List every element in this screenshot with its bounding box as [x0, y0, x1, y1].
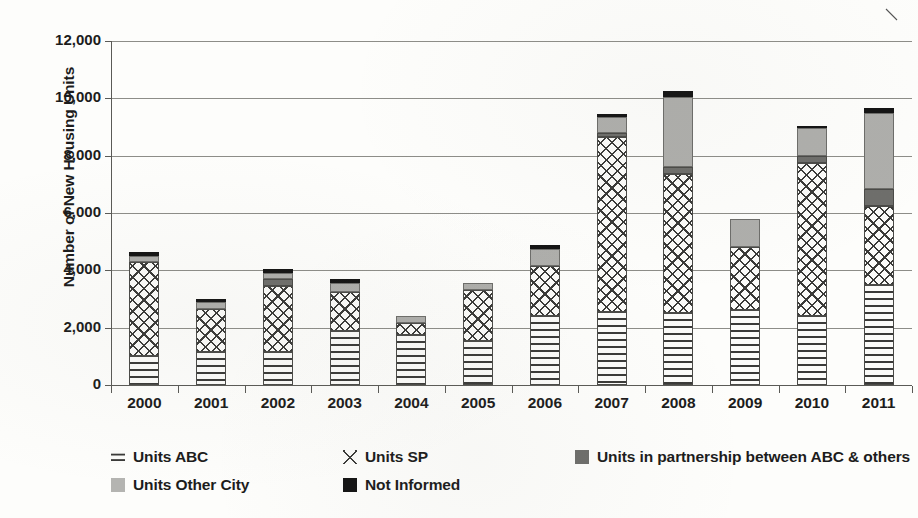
- legend-item[interactable]: Not Informed: [343, 471, 460, 499]
- bar-segment[interactable]: [797, 316, 827, 385]
- x-tick-mark: [512, 386, 513, 393]
- legend-label: Units Other City: [133, 476, 249, 494]
- y-axis-title: Number of New Housing Units: [60, 12, 78, 342]
- bar-segment[interactable]: [663, 167, 693, 174]
- bar-stack[interactable]: [129, 41, 159, 385]
- bar-segment[interactable]: [263, 273, 293, 279]
- x-tick-label: 2006: [513, 394, 577, 412]
- legend-item[interactable]: Units Other City: [111, 471, 249, 499]
- bar-segment[interactable]: [196, 302, 226, 309]
- bar-segment[interactable]: [597, 133, 627, 137]
- x-tick-mark: [445, 386, 446, 393]
- bar-segment[interactable]: [864, 189, 894, 206]
- bar-segment[interactable]: [797, 126, 827, 129]
- x-tick-label: 2010: [780, 394, 844, 412]
- bar-segment[interactable]: [730, 219, 760, 248]
- legend-row: Units Other CityNot Informed: [111, 471, 911, 499]
- bar-segment[interactable]: [330, 279, 360, 283]
- bar-segment[interactable]: [864, 108, 894, 112]
- bar-stack[interactable]: [864, 41, 894, 385]
- bar-segment[interactable]: [196, 309, 226, 352]
- x-tick-mark: [111, 386, 112, 393]
- x-tick-mark: [311, 386, 312, 393]
- bar-segment[interactable]: [864, 206, 894, 285]
- bar-stack[interactable]: [530, 41, 560, 385]
- bar-segment[interactable]: [463, 341, 493, 385]
- bar-stack[interactable]: [730, 41, 760, 385]
- bar-segment[interactable]: [530, 316, 560, 385]
- bar-segment[interactable]: [597, 312, 627, 385]
- bar-stack[interactable]: [663, 41, 693, 385]
- bar-segment[interactable]: [730, 310, 760, 385]
- y-tick-mark: [105, 213, 112, 214]
- y-tick-label: 8,000: [21, 146, 101, 163]
- bar-segment[interactable]: [330, 283, 360, 292]
- x-tick-label: 2009: [713, 394, 777, 412]
- bar-segment[interactable]: [730, 247, 760, 310]
- bar-stack[interactable]: [597, 41, 627, 385]
- legend-label: Not Informed: [365, 476, 460, 494]
- legend-item[interactable]: Units ABC: [111, 443, 208, 471]
- x-tick-mark: [578, 386, 579, 393]
- y-tick-mark: [105, 270, 112, 271]
- bar-segment[interactable]: [396, 323, 426, 334]
- bar-segment[interactable]: [263, 352, 293, 385]
- bar-segment[interactable]: [797, 163, 827, 316]
- bar-stack[interactable]: [396, 41, 426, 385]
- bar-segment[interactable]: [663, 91, 693, 97]
- bar-segment[interactable]: [663, 97, 693, 167]
- y-tick-label: 2,000: [21, 318, 101, 335]
- bar-segment[interactable]: [864, 113, 894, 189]
- bar-segment[interactable]: [196, 352, 226, 385]
- bar-segment[interactable]: [463, 290, 493, 340]
- y-tick-label: 12,000: [21, 31, 101, 48]
- bar-segment[interactable]: [864, 285, 894, 385]
- bar-segment[interactable]: [129, 356, 159, 385]
- bar-stack[interactable]: [330, 41, 360, 385]
- y-tick-label: 0: [21, 375, 101, 392]
- x-tick-mark: [378, 386, 379, 393]
- bar-segment[interactable]: [530, 245, 560, 249]
- legend-item[interactable]: Units in partnership between ABC & other…: [575, 443, 910, 471]
- bar-segment[interactable]: [196, 299, 226, 302]
- y-tick-label: 10,000: [21, 88, 101, 105]
- chart-legend: Units ABCUnits SPUnits in partnership be…: [111, 443, 911, 499]
- x-tick-label: 2002: [246, 394, 310, 412]
- bar-segment[interactable]: [463, 283, 493, 290]
- bar-stack[interactable]: [263, 41, 293, 385]
- bar-segment[interactable]: [597, 114, 627, 117]
- plot-area: [111, 41, 912, 385]
- bar-segment[interactable]: [330, 292, 360, 331]
- legend-swatch-icon: [111, 450, 125, 464]
- legend-item[interactable]: Units SP: [343, 443, 428, 471]
- bar-stack[interactable]: [797, 41, 827, 385]
- bar-stack[interactable]: [196, 41, 226, 385]
- bar-segment[interactable]: [129, 262, 159, 357]
- x-tick-mark: [645, 386, 646, 393]
- x-tick-mark: [178, 386, 179, 393]
- y-tick-mark: [105, 328, 112, 329]
- bar-segment[interactable]: [663, 174, 693, 313]
- bar-segment[interactable]: [396, 316, 426, 323]
- bar-segment[interactable]: [129, 256, 159, 262]
- scan-artifact-icon: [884, 8, 900, 22]
- bar-segment[interactable]: [797, 128, 827, 155]
- bar-segment[interactable]: [263, 286, 293, 352]
- bar-stack[interactable]: [463, 41, 493, 385]
- bar-segment[interactable]: [597, 117, 627, 133]
- bar-segment[interactable]: [797, 156, 827, 163]
- bar-segment[interactable]: [530, 266, 560, 316]
- bar-segment[interactable]: [530, 249, 560, 266]
- bar-segment[interactable]: [263, 279, 293, 286]
- bar-segment[interactable]: [663, 313, 693, 385]
- legend-row: Units ABCUnits SPUnits in partnership be…: [111, 443, 911, 471]
- x-tick-label: 2001: [179, 394, 243, 412]
- bar-segment[interactable]: [263, 269, 293, 273]
- bar-segment[interactable]: [597, 137, 627, 312]
- gridline: [111, 98, 912, 99]
- legend-swatch-icon: [575, 450, 589, 464]
- bar-segment[interactable]: [129, 252, 159, 256]
- bar-segment[interactable]: [330, 331, 360, 385]
- bar-segment[interactable]: [396, 335, 426, 385]
- legend-label: Units in partnership between ABC & other…: [597, 448, 910, 466]
